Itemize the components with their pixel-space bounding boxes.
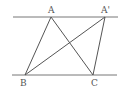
point-label-A-prime: A' <box>100 5 110 15</box>
point-label-C: C <box>91 78 98 88</box>
geometry-diagram: A A' B C <box>0 0 120 90</box>
segment-A-prime-B <box>25 17 105 75</box>
segment-A-prime-C <box>93 17 105 75</box>
segment-AB <box>25 17 51 75</box>
point-label-A: A <box>47 5 55 15</box>
point-label-B: B <box>20 78 27 88</box>
segment-AC <box>51 17 93 75</box>
